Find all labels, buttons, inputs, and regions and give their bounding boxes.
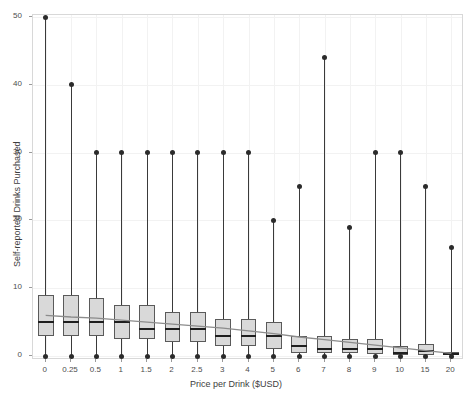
x-tick-mark (349, 359, 350, 362)
plot-panel (32, 14, 463, 359)
x-tick-mark (273, 359, 274, 362)
x-tick-label: 10 (386, 365, 414, 374)
x-tick-mark (248, 359, 249, 362)
y-tick-mark (29, 355, 32, 356)
x-tick-label: 0.5 (81, 365, 109, 374)
x-tick-mark (400, 359, 401, 362)
x-tick-mark (222, 359, 223, 362)
x-tick-label: 1.5 (132, 365, 160, 374)
x-tick-label: 7 (310, 365, 338, 374)
y-tick-mark (29, 84, 32, 85)
y-tick-mark (29, 219, 32, 220)
x-tick-label: 6 (284, 365, 312, 374)
x-tick-mark (425, 359, 426, 362)
x-tick-mark (298, 359, 299, 362)
x-tick-label: 15 (411, 365, 439, 374)
x-tick-label: 3 (208, 365, 236, 374)
y-tick-label: 0 (6, 350, 22, 359)
y-axis-title: Self-reported Drinks Purchased (12, 141, 22, 267)
y-tick-mark (29, 152, 32, 153)
y-tick-mark (29, 287, 32, 288)
trendline (33, 15, 464, 360)
x-tick-mark (146, 359, 147, 362)
x-tick-mark (171, 359, 172, 362)
x-tick-label: 9 (360, 365, 388, 374)
y-tick-label: 40 (6, 79, 22, 88)
x-tick-label: 4 (234, 365, 262, 374)
y-tick-label: 50 (6, 11, 22, 20)
x-tick-mark (324, 359, 325, 362)
x-tick-mark (95, 359, 96, 362)
x-tick-label: 20 (436, 365, 464, 374)
y-tick-mark (29, 16, 32, 17)
x-axis-title: Price per Drink ($USD) (0, 379, 472, 389)
x-tick-label: 2 (157, 365, 185, 374)
x-tick-mark (374, 359, 375, 362)
x-tick-label: 0 (31, 365, 59, 374)
boxplot-chart: 01020304050 00.250.511.522.5345678910152… (0, 0, 472, 393)
x-tick-label: 8 (335, 365, 363, 374)
x-tick-mark (450, 359, 451, 362)
x-tick-label: 1 (107, 365, 135, 374)
x-tick-mark (197, 359, 198, 362)
y-tick-label: 10 (6, 282, 22, 291)
x-tick-mark (70, 359, 71, 362)
x-tick-label: 5 (259, 365, 287, 374)
x-tick-mark (121, 359, 122, 362)
x-tick-label: 0.25 (56, 365, 84, 374)
x-tick-mark (45, 359, 46, 362)
x-tick-label: 2.5 (183, 365, 211, 374)
